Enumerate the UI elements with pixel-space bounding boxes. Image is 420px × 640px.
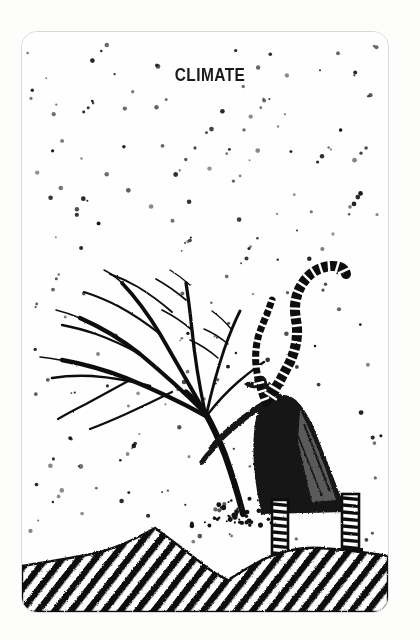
stocking-stripe: [273, 504, 287, 505]
snow-dot: [277, 259, 279, 261]
snow-dot: [154, 105, 158, 109]
snow-dot: [284, 331, 289, 336]
snow-dot: [239, 175, 242, 178]
spray-dot: [207, 524, 211, 528]
snow-dot: [352, 202, 357, 207]
snow-dot: [51, 288, 55, 292]
snow-dot: [165, 98, 168, 101]
spray-dot: [245, 515, 249, 519]
stocking-stripe: [273, 546, 287, 547]
spray-dot: [222, 505, 226, 509]
snow-dot: [352, 158, 357, 163]
snow-dot: [82, 111, 85, 114]
illustration-svg: [22, 32, 388, 612]
snow-dot: [60, 488, 65, 493]
snow-dot: [355, 195, 360, 200]
snow-dot: [187, 200, 192, 205]
snow-dot: [268, 98, 270, 100]
snow-dot: [35, 306, 37, 308]
snow-dot: [136, 391, 140, 395]
snow-dot: [364, 146, 368, 150]
snow-dot: [170, 219, 174, 223]
snow-dot: [320, 247, 324, 251]
snow-dot: [55, 103, 57, 105]
stocking-stripe: [343, 533, 358, 534]
snow-dot: [79, 464, 84, 469]
stocking-stripe: [343, 498, 358, 499]
snow-dot: [81, 196, 86, 201]
snow-dot: [26, 52, 28, 54]
spray-dot: [226, 520, 228, 522]
snow-dot: [146, 514, 150, 518]
snow-dot: [248, 465, 251, 468]
snow-dot: [184, 158, 187, 161]
spray-dot: [204, 521, 206, 523]
stocking-stripe: [343, 526, 358, 527]
snow-dot: [317, 383, 321, 387]
snow-dot: [379, 434, 382, 437]
snow-dot: [256, 65, 260, 69]
snow-dot: [375, 213, 378, 216]
snow-dot: [348, 205, 352, 209]
snow-dot: [31, 88, 34, 91]
snow-dot: [181, 337, 184, 340]
stocking-stripe: [343, 519, 358, 520]
snow-dot: [188, 239, 192, 243]
snow-dot: [55, 277, 58, 280]
snow-dot: [320, 154, 325, 159]
snow-dot: [319, 69, 321, 71]
spray-dot: [228, 515, 231, 518]
snow-dot: [373, 45, 376, 48]
stocking-stripe: [273, 525, 287, 526]
snow-dot: [37, 519, 39, 521]
snow-dot: [29, 97, 32, 100]
snow-dot: [373, 441, 377, 445]
snow-dot: [106, 384, 109, 387]
snow-dot: [48, 195, 53, 200]
snow-dot: [265, 357, 270, 362]
snow-dot: [34, 348, 37, 351]
snow-dot: [255, 148, 260, 153]
spray-dot: [247, 497, 251, 501]
snow-dot: [70, 392, 72, 394]
snow-dot: [209, 127, 214, 132]
snow-dot: [119, 459, 122, 462]
snow-dot: [52, 112, 56, 116]
snow-dot: [167, 490, 169, 492]
snow-dot: [240, 262, 242, 264]
snow-dot: [57, 495, 61, 499]
snow-dot: [131, 90, 134, 93]
snow-dot: [359, 152, 362, 155]
snow-dot: [34, 392, 38, 396]
snow-dot: [74, 392, 76, 394]
spray-dot: [216, 502, 221, 507]
snow-dot: [295, 537, 298, 540]
climate-card: Climate: [0, 0, 420, 640]
snow-dot: [122, 145, 126, 149]
snow-dot: [188, 455, 191, 458]
snow-dot: [52, 457, 55, 460]
snow-dot: [289, 150, 292, 153]
snow-dot: [210, 302, 213, 305]
snow-dot: [330, 148, 332, 150]
snow-dot: [181, 250, 183, 252]
snow-dot: [366, 363, 370, 367]
snow-dot: [79, 246, 83, 250]
snow-dot: [321, 289, 324, 292]
snow-dot: [35, 303, 38, 306]
snow-dot: [90, 58, 95, 63]
snow-dot: [293, 193, 296, 196]
snow-dot: [259, 106, 262, 109]
snow-dot: [138, 433, 140, 435]
spray-dot: [257, 499, 259, 501]
snow-dot: [348, 213, 351, 216]
snow-dot: [213, 507, 217, 511]
snow-dot: [234, 49, 237, 52]
snow-dot: [367, 95, 370, 98]
spray-dot: [232, 514, 237, 519]
snow-dot: [127, 405, 130, 408]
snow-dot: [249, 114, 253, 118]
snow-dot: [113, 73, 115, 75]
stocking-stripe: [273, 518, 287, 519]
snow-dot: [252, 293, 254, 295]
